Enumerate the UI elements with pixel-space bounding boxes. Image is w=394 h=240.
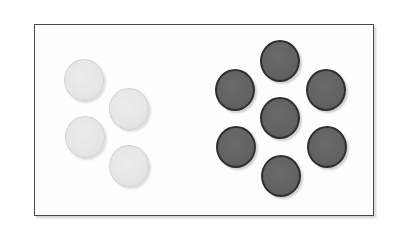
light-disc-icon: [109, 88, 149, 130]
dark-disc-icon: [260, 97, 300, 139]
light-disc-icon: [65, 116, 105, 158]
dark-disc-icon: [261, 155, 301, 197]
dark-disc-icon: [307, 126, 347, 168]
dark-disc-icon: [306, 69, 346, 111]
light-disc-icon: [109, 145, 149, 187]
dark-disc-icon: [216, 126, 256, 168]
light-disc-icon: [64, 59, 104, 101]
dark-disc-icon: [260, 40, 300, 82]
dark-disc-icon: [215, 69, 255, 111]
